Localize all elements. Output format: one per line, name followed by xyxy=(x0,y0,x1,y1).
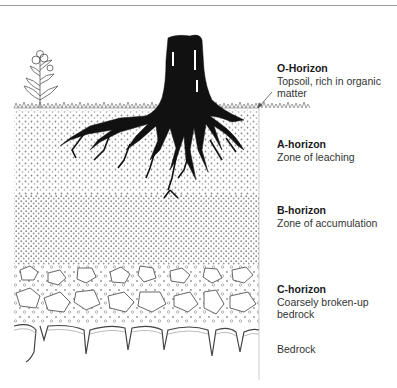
c-horizon-desc-line1: Coarsely broken-up xyxy=(277,296,369,309)
o-horizon-desc: Topsoil, rich in organic matter xyxy=(277,75,397,100)
plant-icon xyxy=(24,51,58,109)
b-horizon-layer xyxy=(14,195,259,265)
soil-profile-illustration xyxy=(0,0,397,388)
label-c-horizon: C-horizon Coarsely broken-up bedrock xyxy=(277,283,369,321)
c-horizon-title: C-horizon xyxy=(277,283,369,296)
b-horizon-title: B-horizon xyxy=(277,204,377,217)
label-b-horizon: B-horizon Zone of accumulation xyxy=(277,204,377,229)
label-bedrock: Bedrock xyxy=(277,343,316,356)
o-horizon-title: O-Horizon xyxy=(277,62,397,75)
c-horizon-desc-line2: bedrock xyxy=(277,308,369,321)
a-horizon-title: A-horizon xyxy=(277,138,355,151)
a-horizon-desc: Zone of leaching xyxy=(277,151,355,164)
bedrock-boundary xyxy=(14,325,259,362)
bedrock-desc: Bedrock xyxy=(277,343,316,356)
b-horizon-desc: Zone of accumulation xyxy=(277,217,377,230)
label-o-horizon: O-Horizon Topsoil, rich in organic matte… xyxy=(277,62,397,100)
label-a-horizon: A-horizon Zone of leaching xyxy=(277,138,355,163)
